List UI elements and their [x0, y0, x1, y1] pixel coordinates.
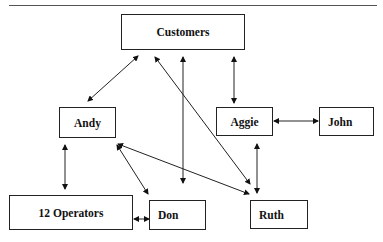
node-label: Ruth: [259, 209, 284, 221]
node-label: Customers: [156, 26, 209, 38]
node-label: Andy: [74, 117, 101, 129]
edge-andy-don: [117, 145, 148, 194]
node-don: Don: [149, 200, 206, 230]
node-label: John: [328, 116, 352, 128]
node-aggie: Aggie: [216, 107, 273, 136]
node-andy: Andy: [59, 107, 116, 138]
node-customers: Customers: [121, 14, 245, 50]
node-john: John: [319, 107, 374, 136]
node-label: Don: [158, 209, 178, 221]
node-ruth: Ruth: [250, 200, 308, 229]
node-label: Aggie: [230, 116, 258, 128]
node-operators: 12 Operators: [9, 195, 133, 230]
edge-customers-andy: [88, 56, 138, 101]
node-label: 12 Operators: [39, 207, 104, 219]
